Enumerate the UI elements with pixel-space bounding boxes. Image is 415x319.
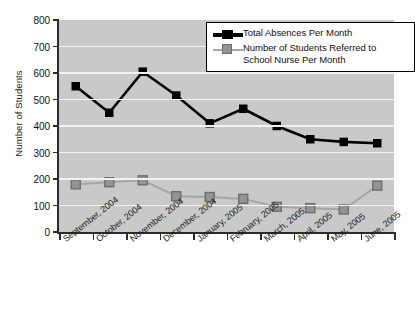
y-axis-tick (53, 152, 59, 154)
gridline (59, 72, 394, 74)
data-point-marker (71, 180, 80, 189)
chart-legend: Total Absences Per Month Number of Stude… (206, 22, 415, 72)
y-axis-tick (53, 72, 59, 74)
y-axis-tick-label: 800 (18, 15, 50, 26)
y-axis-tick (53, 125, 59, 127)
gridline (59, 99, 394, 101)
legend-label-referrals: Number of Students Referred to School Nu… (243, 42, 407, 65)
y-axis-tick (53, 46, 59, 48)
line-chart: Number of Students 010020030040050060070… (0, 0, 415, 319)
data-point-marker (373, 139, 382, 148)
gridline (59, 178, 394, 180)
y-axis-tick (53, 19, 59, 21)
y-axis-tick-label: 100 (18, 200, 50, 211)
y-axis-tick-labels: 0100200300400500600700800 (16, 0, 50, 319)
y-axis-tick-label: 400 (18, 121, 50, 132)
data-point-marker (339, 205, 348, 214)
y-axis-tick-label: 300 (18, 147, 50, 158)
legend-item-total-absences: Total Absences Per Month (213, 27, 407, 41)
legend-key-black-square-icon (213, 28, 243, 41)
y-axis-tick-label: 700 (18, 41, 50, 52)
gridline (59, 152, 394, 154)
data-point-marker (239, 105, 248, 114)
y-axis-tick (53, 205, 59, 207)
data-point-marker (72, 82, 81, 91)
x-axis-tick-labels: September, 2004October, 2004November, 20… (57, 236, 415, 319)
legend-label-total-absences: Total Absences Per Month (243, 27, 352, 39)
gridline (59, 125, 394, 127)
data-point-marker (239, 194, 248, 203)
y-axis-tick-label: 200 (18, 174, 50, 185)
y-axis-tick (53, 99, 59, 101)
legend-key-gray-square-icon (213, 43, 243, 56)
data-point-marker (105, 109, 114, 118)
y-axis-tick-label: 500 (18, 94, 50, 105)
data-point-marker (306, 135, 315, 144)
data-point-marker (340, 138, 349, 147)
legend-item-referrals: Number of Students Referred to School Nu… (213, 42, 407, 65)
data-point-marker (373, 181, 382, 190)
y-axis-tick-label: 600 (18, 68, 50, 79)
series-line (76, 72, 378, 144)
data-point-marker (138, 176, 147, 185)
y-axis-tick (53, 178, 59, 180)
y-axis-tick-label: 0 (18, 227, 50, 238)
